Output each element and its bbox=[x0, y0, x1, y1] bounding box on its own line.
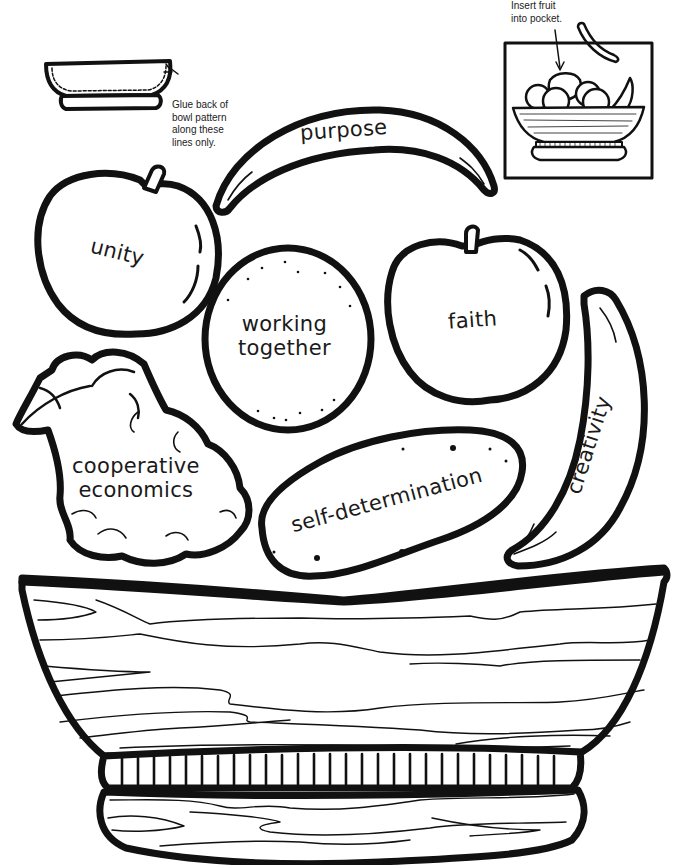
insert-instruction-note: Insert fruit into pocket. bbox=[511, 0, 562, 25]
glue-note-line: bowl pattern bbox=[172, 112, 228, 125]
glue-note-line: along these bbox=[172, 124, 228, 137]
glue-note-line: Glue back of bbox=[172, 99, 228, 112]
pocket-diagram-icon bbox=[505, 23, 652, 178]
label-line: cooperative bbox=[72, 454, 200, 478]
label-faith: faith bbox=[447, 306, 498, 334]
label-line: together bbox=[238, 336, 331, 360]
label-line: economics bbox=[72, 478, 200, 502]
glue-instruction-note: Glue back of bowl pattern along these li… bbox=[172, 99, 228, 149]
label-line: working bbox=[238, 312, 331, 336]
kwanzaa-fruit-bowl-worksheet: Glue back of bowl pattern along these li… bbox=[0, 0, 678, 865]
insert-note-line: Insert fruit bbox=[511, 0, 562, 13]
insert-note-line: into pocket. bbox=[511, 13, 562, 26]
label-working-together: working together bbox=[238, 312, 331, 360]
label-cooperative-economics: cooperative economics bbox=[72, 454, 200, 502]
wooden-bowl-shape bbox=[22, 568, 667, 864]
glue-diagram-icon bbox=[46, 61, 178, 109]
glue-note-line: lines only. bbox=[172, 137, 228, 150]
